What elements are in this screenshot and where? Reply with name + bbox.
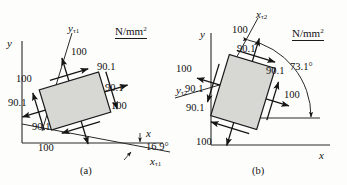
panel-a-stress-left-shear-90: 90.1 bbox=[8, 98, 26, 109]
panel-b-bottom-normal-arrow bbox=[227, 123, 234, 146]
panel-b-stress-right-shear-90: 90.1 bbox=[266, 66, 284, 77]
panel-a-yt1-subscript: τ1 bbox=[73, 27, 79, 35]
panel-b-stress-left-shear-90: 90.1 bbox=[185, 84, 203, 95]
panel-a-stress-right-shear-90: 90.1 bbox=[105, 83, 123, 94]
panel-a-stress-top-100: 100 bbox=[71, 47, 87, 58]
panel-a-stress-right-100: 100 bbox=[111, 101, 127, 112]
panel-a-xt1-subscript: τ1 bbox=[155, 160, 161, 168]
panel-a-yt1-axis-label: yτ1 bbox=[68, 23, 79, 35]
panel-b-xt2-subscript: τ2 bbox=[261, 13, 267, 21]
figure-root: y x yτ1 xτ1 16.9° 100 90.1 90.1 100 100 … bbox=[0, 0, 347, 185]
panel-a-units-text: N/mm bbox=[115, 25, 143, 37]
panel-b-units-text: N/mm bbox=[292, 27, 320, 39]
panel-a-angle-tick-bottom bbox=[124, 152, 131, 160]
panel-a-stress-left-100: 100 bbox=[16, 74, 32, 85]
panel-b-stress-bottom-100: 100 bbox=[196, 137, 212, 148]
panel-b-caption: (b) bbox=[252, 166, 264, 177]
panel-b-xt2-axis-label: xτ2 bbox=[256, 9, 267, 21]
panel-a-stress-bottom-100: 100 bbox=[38, 143, 54, 154]
panel-b-stress-left-100: 100 bbox=[176, 64, 192, 75]
panel-b-y-axis-label: y bbox=[200, 29, 205, 40]
panel-a-y-axis-label: y bbox=[7, 38, 12, 49]
panel-a-units-exponent: 2 bbox=[143, 25, 147, 33]
panel-a-stress-top-shear-90: 90.1 bbox=[97, 62, 115, 73]
panel-b-stress-bottom-shear-90: 90.1 bbox=[186, 103, 204, 114]
panel-a-bottom-normal-arrow bbox=[81, 121, 88, 144]
panel-a-stress-bottom-shear-90: 90.1 bbox=[32, 122, 50, 133]
panel-a-left-normal-arrow bbox=[22, 110, 45, 117]
panel-a-caption: (a) bbox=[80, 166, 92, 177]
panel-b-stress-right-100: 100 bbox=[284, 90, 300, 101]
panel-b-angle-label: 73.1° bbox=[290, 62, 313, 73]
panel-b-stress-top-shear-90: 90.1 bbox=[237, 44, 255, 55]
panel-a-angle-label: 16.9° bbox=[146, 142, 169, 153]
panel-a-x-axis-label: x bbox=[146, 128, 151, 139]
panel-b-x-axis-label: x bbox=[319, 150, 324, 161]
panel-a-top-normal-arrow bbox=[62, 58, 69, 81]
panel-b-units-label: N/mm2 bbox=[292, 28, 324, 41]
panel-a-xt1-axis-label: xτ1 bbox=[150, 156, 161, 168]
panel-a-units-label: N/mm2 bbox=[115, 26, 147, 39]
panel-b-units-exponent: 2 bbox=[320, 27, 324, 35]
panel-b-stress-top-100: 100 bbox=[232, 25, 248, 36]
